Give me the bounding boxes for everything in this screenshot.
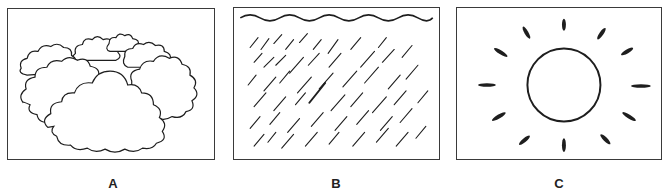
panel-a — [7, 8, 215, 160]
panel-c — [456, 7, 662, 160]
panel-b-label: B — [316, 176, 356, 191]
panel-b — [233, 7, 440, 160]
panel-a-label: A — [93, 176, 133, 191]
clouds-icon — [8, 9, 214, 159]
rain-icon — [234, 8, 439, 159]
panel-c-label: C — [539, 176, 579, 191]
sun-icon — [457, 8, 661, 159]
